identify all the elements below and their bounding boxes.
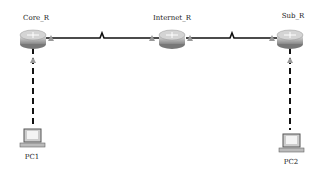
router-icon[interactable] [159, 30, 185, 49]
link-endpoint-icon [30, 57, 36, 63]
pc-icon[interactable] [279, 134, 304, 152]
node-label-sub: Sub_R [282, 12, 305, 20]
node-label-pc1: PC1 [25, 153, 40, 161]
node-label-core: Core_R [23, 14, 49, 22]
node-label-internet: Internet_R [153, 14, 191, 22]
link-internet-sub[interactable] [186, 33, 280, 38]
link-core-internet[interactable] [44, 33, 160, 38]
pc-icon[interactable] [20, 129, 45, 147]
topology-canvas [0, 0, 324, 181]
link-endpoint-icon [287, 57, 293, 63]
router-icon[interactable] [20, 30, 46, 49]
node-label-pc2: PC2 [284, 158, 299, 166]
router-icon[interactable] [277, 30, 303, 49]
